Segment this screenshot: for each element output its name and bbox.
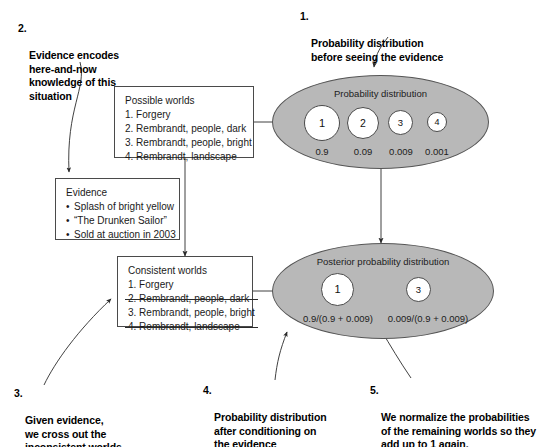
posterior-world-circle-3: 3 xyxy=(406,277,431,302)
prior-probability-ellipse: Probability distribution 1 2 3 4 0.9 0.0… xyxy=(272,75,489,169)
diagram-canvas: 1. Probability distribution before seein… xyxy=(0,0,549,447)
prior-world-label: 3 xyxy=(398,117,403,128)
caption-5-text: We normalize the probabilities of the re… xyxy=(370,411,549,447)
caption-1-number: 1. xyxy=(300,10,309,24)
evidence-item-text: “The Drunken Sailor” xyxy=(74,215,167,226)
prior-world-circle-4: 4 xyxy=(427,112,447,132)
caption-2-number: 2. xyxy=(18,22,27,36)
possible-worlds-item: 3. Rembrandt, people, bright xyxy=(125,136,245,150)
caption-3-number: 3. xyxy=(14,387,23,401)
posterior-probability-value: 0.009/(0.9 + 0.009) xyxy=(363,313,493,324)
evidence-item-text: Splash of bright yellow xyxy=(74,201,174,212)
evidence-item: •Sold at auction in 2003 xyxy=(66,228,171,242)
possible-worlds-item: 2. Rembrandt, people, dark xyxy=(125,122,245,136)
consistent-worlds-title: Consistent worlds xyxy=(128,264,244,278)
evidence-item-text: Sold at auction in 2003 xyxy=(74,229,176,240)
caption-4: 4. Probability distribution after condit… xyxy=(203,384,363,447)
prior-ellipse-title: Probability distribution xyxy=(273,88,488,99)
caption-5: 5. We normalize the probabilities of the… xyxy=(370,384,549,447)
caption-3: 3. Given evidence, we cross out the inco… xyxy=(14,387,164,447)
bullet-icon: • xyxy=(66,214,74,228)
prior-world-label: 1 xyxy=(319,117,325,129)
bullet-icon: • xyxy=(66,228,74,242)
consistent-worlds-item: 3. Rembrandt, people, bright xyxy=(128,306,244,320)
bullet-icon: • xyxy=(66,200,74,214)
caption-4-text: Probability distribution after condition… xyxy=(203,411,363,447)
possible-worlds-box: Possible worlds 1. Forgery 2. Rembrandt,… xyxy=(114,86,254,158)
consistent-worlds-box: Consistent worlds 1. Forgery 2. Rembrand… xyxy=(117,256,253,327)
consistent-worlds-item: 1. Forgery xyxy=(128,278,244,292)
prior-probability-value: 0.001 xyxy=(407,146,467,157)
caption-3-text: Given evidence, we cross out the inconsi… xyxy=(14,414,164,447)
posterior-probability-ellipse: Posterior probability distribution 1 3 0… xyxy=(272,243,494,339)
consistent-worlds-item-struck: 4. Rembrandt, landscape xyxy=(128,320,244,334)
curved-pointer-caption-4 xyxy=(275,332,287,380)
prior-world-circle-3: 3 xyxy=(388,110,413,135)
evidence-item: •“The Drunken Sailor” xyxy=(66,214,171,228)
posterior-world-circle-1: 1 xyxy=(321,273,354,306)
consistent-worlds-item-struck: 2. Rembrandt, people, dark xyxy=(128,292,244,306)
evidence-box: Evidence •Splash of bright yellow •“The … xyxy=(55,178,180,240)
prior-world-label: 4 xyxy=(434,117,439,127)
evidence-item: •Splash of bright yellow xyxy=(66,200,171,214)
prior-world-circle-2: 2 xyxy=(347,107,379,139)
possible-worlds-item: 4. Rembrandt, landscape xyxy=(125,150,245,164)
posterior-world-label: 1 xyxy=(334,283,340,295)
posterior-world-label: 3 xyxy=(416,284,421,295)
prior-world-label: 2 xyxy=(360,117,366,129)
posterior-ellipse-title: Posterior probability distribution xyxy=(273,256,493,267)
caption-5-number: 5. xyxy=(370,384,379,398)
possible-worlds-item: 1. Forgery xyxy=(125,108,245,122)
caption-4-number: 4. xyxy=(203,384,212,398)
curved-pointer-caption-3 xyxy=(44,299,111,385)
evidence-title: Evidence xyxy=(66,186,171,200)
prior-world-circle-1: 1 xyxy=(304,105,340,141)
possible-worlds-title: Possible worlds xyxy=(125,94,245,108)
caption-1: 1. Probability distribution before seein… xyxy=(300,10,500,78)
caption-1-text: Probability distribution before seeing t… xyxy=(300,37,500,64)
